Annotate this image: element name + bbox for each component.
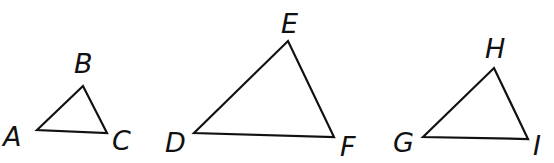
vertex-label-b: B — [74, 48, 93, 79]
triangle-ghi: G H I — [393, 33, 541, 161]
vertex-label-f: F — [340, 131, 356, 162]
triangle-abc: A B C — [1, 48, 131, 156]
triangle-ghi-shape — [423, 68, 528, 139]
vertex-label-e: E — [281, 8, 298, 39]
vertex-label-a: A — [1, 121, 21, 152]
triangles-diagram: A B C D E F G H I — [0, 0, 554, 163]
vertex-label-c: C — [112, 125, 131, 156]
vertex-label-i: I — [533, 130, 541, 161]
triangle-def: D E F — [165, 8, 356, 162]
triangle-abc-shape — [37, 86, 107, 133]
vertex-label-g: G — [393, 127, 414, 158]
vertex-label-h: H — [485, 33, 505, 64]
triangle-def-shape — [194, 41, 334, 137]
vertex-label-d: D — [165, 127, 186, 158]
